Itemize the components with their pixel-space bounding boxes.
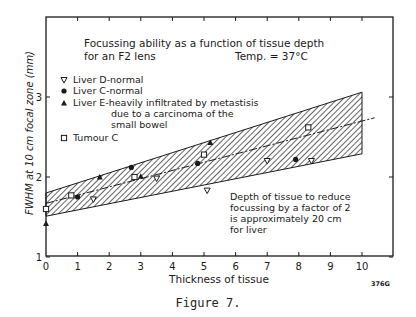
chart-subtitle-temp: Temp. = 37°C	[234, 50, 308, 62]
legend-markers	[61, 78, 67, 141]
x-axis-label: Thickness of tissue	[168, 273, 269, 285]
triangle-down-marker	[204, 188, 210, 194]
annotation-line3: is approximately 20 cm	[230, 213, 341, 224]
figure-code: 376G	[371, 280, 390, 288]
square-marker	[69, 193, 74, 198]
x-tick-label: 10	[356, 261, 369, 272]
annotation-line1: Depth of tissue to reduce	[230, 191, 351, 202]
y-tick-label: 1	[36, 252, 42, 263]
x-tick-label: 1	[74, 261, 80, 272]
chart-title-line2: for an F2 lens	[84, 50, 156, 62]
triangle-up-marker	[61, 100, 67, 106]
x-tick-label: 7	[264, 261, 270, 272]
chart-title-line1: Focussing ability as a function of tissu…	[84, 37, 324, 49]
figure-caption: Figure 7.	[0, 296, 416, 310]
x-tick-label: 0	[43, 261, 49, 272]
circle-marker	[75, 194, 80, 199]
square-marker	[201, 152, 206, 157]
y-tick-label: 3	[36, 92, 42, 103]
circle-marker	[293, 157, 298, 162]
square-marker	[43, 206, 48, 211]
triangle-down-marker	[61, 78, 67, 84]
legend-label-liver-e-cont2: small bowel	[111, 119, 167, 130]
triangle-up-marker	[43, 220, 49, 226]
y-tick-label: 2	[36, 172, 42, 183]
annotation-line2: focussing by a factor of 2	[230, 202, 351, 213]
legend-label-liver-d: Liver D-normal	[73, 74, 143, 85]
legend-label-liver-c: Liver C-normal	[73, 85, 143, 96]
x-tick-label: 4	[169, 261, 175, 272]
legend-label-liver-e-cont1: due to a carcinoma of the	[111, 108, 234, 119]
legend-label-tumour-c: Tumour C	[72, 132, 118, 143]
square-marker	[306, 125, 311, 130]
square-marker	[61, 135, 66, 140]
square-marker	[132, 174, 137, 179]
legend-label-liver-e: Liver E-heavily infiltrated by metastisi…	[73, 97, 259, 108]
x-tick-label: 2	[106, 261, 112, 272]
annotation-line4: for liver	[230, 224, 267, 235]
x-tick-label: 9	[327, 261, 333, 272]
x-tick-label: 3	[138, 261, 144, 272]
circle-marker	[129, 165, 134, 170]
x-tick-label: 5	[201, 261, 207, 272]
x-tick-label: 6	[232, 261, 238, 272]
circle-marker	[61, 88, 66, 93]
circle-marker	[195, 161, 200, 166]
x-tick-label: 8	[296, 261, 302, 272]
chart-figure: 012345678910123 Focussing ability as a f…	[0, 0, 416, 317]
y-axis-label: FWHM at 10 cm focal zone (mm)	[24, 51, 35, 215]
